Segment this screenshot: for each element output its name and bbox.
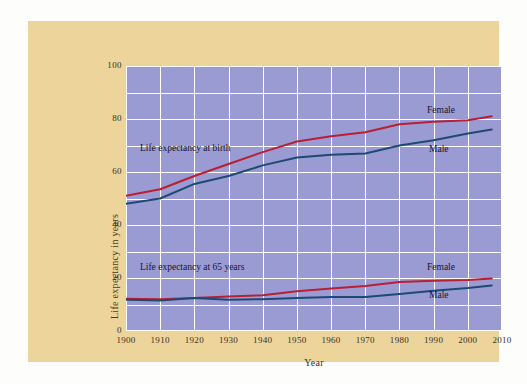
label-age65-male: Male: [429, 290, 449, 300]
annotation-at-65: Life expectancy at 65 years: [140, 262, 244, 272]
y-axis-ticks: 020406080100: [84, 66, 122, 331]
series-line: [126, 130, 492, 204]
y-axis-tick-label: 80: [88, 113, 122, 123]
annotation-at-birth: Life expectancy at birth: [140, 143, 230, 153]
label-age65-female: Female: [427, 262, 455, 272]
x-axis-tick-label: 2010: [480, 335, 524, 345]
y-axis-tick-label: 20: [88, 272, 122, 282]
y-axis-tick-label: 100: [88, 60, 122, 70]
label-birth-female: Female: [427, 105, 455, 115]
x-axis-ticks: 1900191019201930194019501960197019801990…: [126, 335, 502, 351]
y-axis-tick-label: 60: [88, 166, 122, 176]
y-axis-tick-label: 40: [88, 219, 122, 229]
label-birth-male: Male: [429, 144, 449, 154]
x-axis-title: Year: [126, 357, 502, 368]
chart-panel: Life expectancy in years 020406080100 Li…: [28, 21, 499, 362]
figure-canvas: Life expectancy in years 020406080100 Li…: [0, 0, 527, 384]
y-axis-tick-label: 0: [88, 325, 122, 335]
y-axis-title-wrapper: Life expectancy in years: [66, 121, 84, 281]
plot-area: Life expectancy at birth Life expectancy…: [126, 66, 502, 331]
